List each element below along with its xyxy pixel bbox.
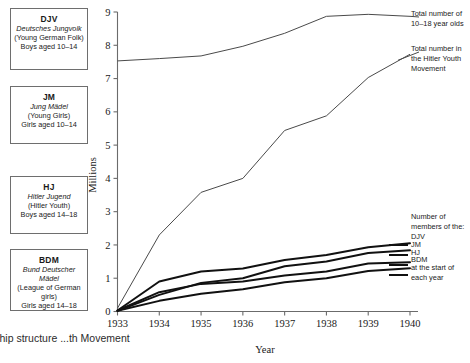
legend-item-hj: HJ [411, 248, 469, 256]
legend-swatch-bdm [389, 274, 408, 276]
chart-axes [118, 12, 419, 312]
svg-text:1933: 1933 [107, 318, 128, 329]
legend-footer: at the start of each year [411, 263, 469, 283]
svg-text:1939: 1939 [358, 318, 379, 329]
svg-text:0: 0 [105, 306, 110, 317]
legend-swatch-djv [389, 244, 408, 246]
svg-text:7: 7 [105, 73, 110, 84]
svg-text:1938: 1938 [316, 318, 337, 329]
svg-text:4: 4 [105, 173, 111, 184]
legend-swatch-jm [389, 254, 408, 256]
y-axis-ticks: 0123456789 [105, 7, 117, 318]
legend-heading: Number of members of the: [411, 212, 469, 232]
svg-text:5: 5 [105, 140, 110, 151]
svg-text:6: 6 [105, 106, 110, 117]
svg-text:1936: 1936 [232, 318, 253, 329]
series-line [118, 54, 411, 308]
svg-text:8: 8 [105, 40, 110, 51]
figure-caption: ...rship structure ...th Movement [0, 331, 172, 345]
series-line [118, 14, 411, 61]
chart-series [118, 14, 411, 311]
svg-text:3: 3 [105, 206, 110, 217]
svg-text:2: 2 [105, 240, 110, 251]
legend-item-djv: DJV [411, 232, 469, 240]
series-line [118, 268, 411, 311]
svg-text:1937: 1937 [274, 318, 295, 329]
legend-item-bdm: BDM [411, 255, 469, 263]
x-axis-title: Year [255, 344, 275, 355]
annotation-total-population: Total number of 10–18 year olds [411, 9, 469, 29]
line-chart: 0123456789 19331934193519361937193819391… [0, 0, 470, 363]
legend-swatch-hj [389, 264, 408, 266]
x-axis-ticks: 19331934193519361937193819391940 [107, 312, 421, 329]
chart-svg: 0123456789 19331934193519361937193819391… [0, 0, 470, 363]
annotation-total-movement: Total number in the Hitler Youth Movemen… [411, 44, 469, 75]
svg-text:1: 1 [105, 273, 110, 284]
svg-text:1940: 1940 [400, 318, 421, 329]
svg-text:1935: 1935 [191, 318, 212, 329]
svg-text:9: 9 [105, 7, 110, 18]
y-axis-title: Millions [87, 157, 98, 193]
legend-item-jm: JM [411, 240, 469, 248]
svg-text:1934: 1934 [149, 318, 171, 329]
chart-legend: Number of members of the: DJV JM HJ BDM … [411, 212, 469, 283]
